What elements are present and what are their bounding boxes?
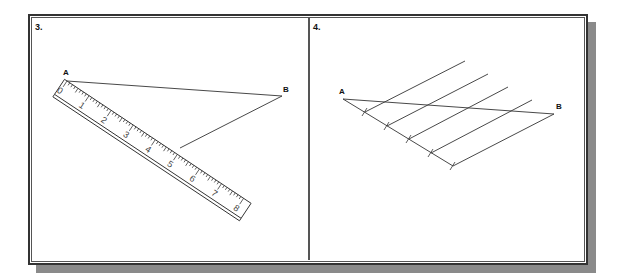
point-a-label-panel4: A bbox=[339, 87, 345, 96]
ruler-numbers: 012345678 bbox=[55, 85, 241, 213]
parallel-line-5 bbox=[453, 114, 554, 166]
point-a-label-panel3: A bbox=[63, 68, 69, 77]
line-ab-panel3 bbox=[67, 81, 282, 96]
parallel-line-4 bbox=[431, 100, 532, 153]
division-marks bbox=[362, 108, 455, 170]
point-b-label-panel4: B bbox=[556, 102, 562, 111]
parallel-line-2 bbox=[387, 74, 488, 126]
parallel-line-3 bbox=[409, 87, 508, 139]
construction-line-panel4 bbox=[343, 99, 453, 166]
line-b-to-5-panel3 bbox=[180, 96, 282, 148]
line-ab-panel4 bbox=[343, 99, 554, 114]
point-b-label-panel3: B bbox=[283, 85, 289, 94]
geometry-drawing: 012345678 A B A B bbox=[0, 0, 617, 280]
